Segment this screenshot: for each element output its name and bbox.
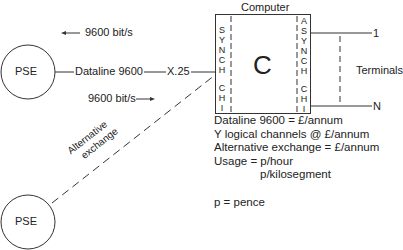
terminal-last-label: N [373, 100, 381, 112]
pse-bottom-label: PSE [15, 215, 37, 227]
rate-inbound-label: 9600 bit/s [85, 26, 133, 38]
protocol-label: X.25 [167, 65, 190, 77]
terminal-first-label: 1 [373, 27, 379, 39]
cost-usage: Usage = p/hour [214, 155, 379, 169]
rate-outbound-label: 9600 bit/s [88, 92, 136, 104]
computer-center-label: C [253, 50, 272, 81]
terminals-label: Terminals [356, 64, 403, 76]
cost-summary: Dataline 9600 = £/annum Y logical channe… [214, 114, 379, 209]
dataline-label: Dataline 9600 [75, 65, 143, 77]
pse-top-label: PSE [15, 65, 37, 77]
cost-alternative-exchange: Alternative exchange = £/annum [214, 141, 379, 155]
cost-usage-kilosegment: p/kilosegment [214, 168, 379, 182]
cost-logical-channels: Y logical channels @ £/annum [214, 128, 379, 142]
cost-dataline: Dataline 9600 = £/annum [214, 114, 379, 128]
computer-title: Computer [241, 1, 289, 13]
pence-legend: p = pence [214, 196, 379, 210]
